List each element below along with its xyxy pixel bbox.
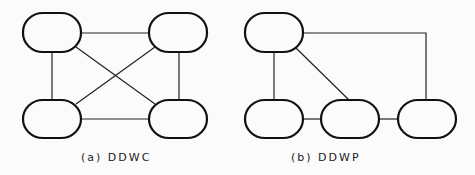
node-b-top: [245, 13, 303, 52]
node-a-top-right: [149, 13, 207, 52]
diagram-canvas: (a) DDWC (b) DDWP: [0, 0, 475, 175]
caption-b: (b) DDWP: [291, 151, 361, 164]
node-a-bottom-left: [23, 100, 81, 138]
edge-b-diagonal: [296, 48, 349, 100]
caption-a: (a) DDWC: [81, 151, 151, 164]
node-a-top-left: [23, 13, 81, 52]
edge-b-top-to-right: [303, 33, 426, 100]
node-a-bottom-right: [149, 100, 207, 138]
node-b-bottom-middle: [321, 100, 379, 138]
node-b-bottom-left: [245, 100, 303, 138]
diagram-b: (b) DDWP: [245, 13, 456, 164]
diagram-a: (a) DDWC: [23, 13, 207, 164]
node-b-bottom-right: [398, 100, 456, 138]
